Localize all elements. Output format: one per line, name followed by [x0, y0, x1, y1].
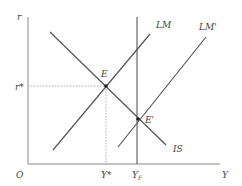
- is-lm-diagram: r Y O r* Y* YF E E' IS LM LM': [0, 0, 242, 186]
- point-e: [104, 84, 108, 88]
- x-axis-label: Y: [222, 170, 229, 180]
- e-label: E: [100, 69, 108, 79]
- y-axis-label: r: [17, 12, 22, 22]
- yf-label: YF: [132, 170, 143, 181]
- r-star-label: r*: [15, 82, 24, 92]
- y-star-label: Y*: [101, 170, 112, 180]
- lm-prime-label: LM': [198, 22, 217, 32]
- origin-label: O: [16, 170, 24, 180]
- is-label: IS: [172, 144, 183, 154]
- is-curve: [50, 32, 166, 145]
- lm-prime-curve: [118, 37, 206, 147]
- e-prime-label: E': [144, 115, 154, 125]
- lm-curve: [53, 34, 150, 150]
- point-e-prime: [136, 117, 140, 121]
- lm-label: LM: [155, 20, 172, 30]
